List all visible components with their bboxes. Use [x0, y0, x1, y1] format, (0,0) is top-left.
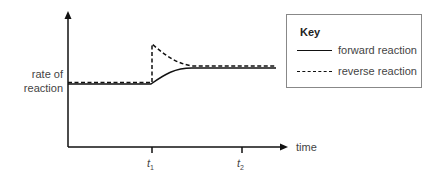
legend-label-reverse: reverse reaction	[338, 65, 417, 77]
legend-title: Key	[300, 26, 320, 38]
y-axis-arrow-icon	[65, 11, 72, 19]
solid-line-swatch-icon	[297, 50, 332, 51]
tick-label-t2: t2	[237, 157, 244, 171]
y-axis-label-line1: rate of	[24, 67, 63, 81]
reverse-reaction-line	[68, 44, 276, 83]
dashed-line-swatch-icon	[297, 71, 332, 72]
tick-label-t2-sub: 2	[240, 164, 244, 171]
forward-reaction-line	[68, 68, 276, 84]
y-axis-label-line2: reaction	[24, 81, 63, 95]
legend-label-forward: forward reaction	[338, 44, 417, 56]
tick-label-t1: t1	[147, 157, 154, 171]
legend-item-forward: forward reaction	[297, 44, 417, 56]
legend: Key forward reaction reverse reaction	[286, 14, 422, 88]
y-axis-label: rate of reaction	[24, 67, 63, 95]
legend-item-reverse: reverse reaction	[297, 65, 417, 77]
x-axis-arrow-icon	[280, 144, 288, 151]
tick-label-t1-sub: 1	[150, 164, 154, 171]
x-axis-label: time	[296, 141, 317, 153]
